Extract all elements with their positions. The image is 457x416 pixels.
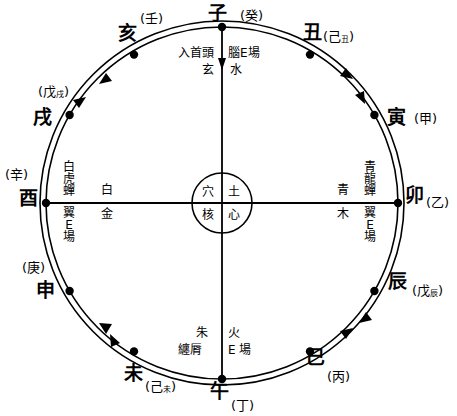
stem-label-hai: (壬): [140, 12, 163, 25]
east-upper-label: 青 龍 蟬: [364, 161, 376, 198]
branch-marker-shen: [65, 287, 73, 295]
south-left-bottom: 纏脣: [178, 344, 202, 356]
west-lower-label: 翼 E 場: [63, 207, 75, 244]
stem-label-you: (辛): [5, 168, 28, 181]
branch-label-wu[interactable]: 午: [210, 382, 229, 401]
west-lower-ch3: 場: [63, 231, 75, 243]
core-bottom-right: 心: [228, 209, 240, 221]
branch-label-shen[interactable]: 申: [36, 281, 55, 300]
stem-label-chou: (己丑): [323, 30, 354, 44]
branch-marker-zi: [218, 23, 226, 31]
branch-marker-yin: [370, 111, 378, 119]
stem-label-si: (丙): [327, 370, 350, 383]
west-upper-ch3: 蟬: [63, 185, 75, 197]
branch-marker-mao: [394, 199, 402, 207]
branch-marker-wei: [130, 347, 138, 355]
stem-label-wei: (己未): [145, 380, 176, 394]
branch-label-zi[interactable]: 子: [208, 4, 227, 23]
stem-label-zi: (癸): [240, 9, 263, 22]
south-right-bottom: E 場: [228, 344, 251, 356]
east-upper-ch3: 蟬: [364, 185, 376, 197]
east-lower-label: 翼 E 場: [364, 207, 376, 244]
north-left-label: 入首頭: [178, 47, 214, 59]
north-left-element: 玄: [202, 64, 214, 76]
core-bottom-left: 核: [202, 209, 214, 221]
branch-marker-chen: [370, 287, 378, 295]
branch-label-mao[interactable]: 卯: [405, 186, 424, 205]
stem-label-mao: (乙): [426, 196, 449, 209]
core-top-left: 穴: [202, 186, 214, 198]
east-inner-lower: 木: [337, 208, 349, 220]
stem-label-shen: (庚): [22, 261, 45, 274]
branch-label-hai[interactable]: 亥: [118, 24, 137, 43]
west-inner-lower: 金: [101, 208, 113, 220]
east-inner-upper: 青: [337, 184, 349, 196]
south-right-top: 火: [228, 327, 240, 339]
branch-label-yin[interactable]: 寅: [387, 108, 406, 127]
branch-marker-you: [42, 199, 50, 207]
north-right-element: 水: [230, 64, 242, 76]
stem-label-wu: (丁): [231, 399, 254, 412]
north-right-label: 腦E場: [228, 47, 260, 59]
flow-arrow-sw-outer: [99, 323, 112, 334]
flow-arrow-ne-outer: [340, 68, 353, 79]
branch-marker-hai: [130, 50, 138, 58]
south-left-top: 朱: [196, 327, 208, 339]
flow-arrow-se-inner: [359, 312, 372, 323]
core-top-right: 土: [228, 186, 240, 198]
vertical-axis-arrowhead: [218, 58, 226, 70]
branch-label-chou[interactable]: 丑: [303, 23, 322, 42]
stem-label-chen: (戊辰): [412, 284, 443, 298]
west-inner-upper: 白: [101, 184, 113, 196]
flow-arrow-ne-inner: [355, 91, 365, 104]
branch-label-chen[interactable]: 辰: [388, 272, 407, 291]
branch-label-si[interactable]: 巳: [306, 348, 325, 367]
branch-label-xu[interactable]: 戌: [33, 108, 52, 127]
diagram-canvas: 子 (癸) 丑 (己丑) 寅 (甲) 卯 (乙) 辰 (戊辰) 巳 (丙) 午 …: [0, 0, 457, 416]
east-lower-ch3: 場: [364, 231, 376, 243]
branch-label-you[interactable]: 酉: [19, 189, 38, 208]
stem-label-xu: (戊戌): [38, 85, 69, 99]
branch-label-wei[interactable]: 未: [124, 364, 143, 383]
branch-marker-xu: [65, 111, 73, 119]
flow-arrow-se-outer: [340, 328, 353, 339]
branch-marker-chou: [306, 50, 314, 58]
west-upper-label: 白 虎 蟬: [63, 161, 75, 198]
stem-label-yin: (甲): [414, 112, 437, 125]
